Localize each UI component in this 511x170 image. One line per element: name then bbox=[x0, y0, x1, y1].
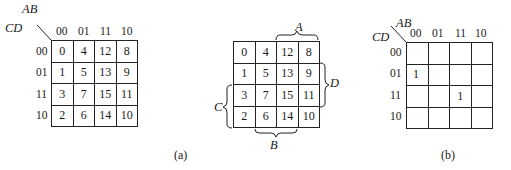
row-label: 10 bbox=[390, 110, 402, 122]
col-label: 10 bbox=[475, 27, 487, 39]
cell bbox=[471, 64, 493, 86]
cell bbox=[471, 107, 493, 129]
cell bbox=[407, 107, 429, 129]
col-label: 11 bbox=[455, 27, 466, 39]
col-label: 01 bbox=[432, 27, 444, 39]
kmap-grid: 1 1 bbox=[406, 42, 493, 129]
cell bbox=[471, 43, 493, 65]
cell bbox=[428, 64, 450, 86]
cell: 1 bbox=[450, 86, 472, 108]
col-label: 00 bbox=[410, 27, 422, 39]
cell bbox=[428, 43, 450, 65]
cell bbox=[407, 86, 429, 108]
row-label: 01 bbox=[390, 67, 402, 79]
cell bbox=[450, 43, 472, 65]
col-var-label: AB bbox=[396, 16, 411, 31]
cell: 1 bbox=[407, 64, 429, 86]
row-label: 00 bbox=[390, 46, 402, 58]
cell bbox=[450, 107, 472, 129]
row-label: 11 bbox=[390, 89, 401, 101]
cell bbox=[450, 64, 472, 86]
cell bbox=[407, 43, 429, 65]
brace-right-icon bbox=[320, 63, 329, 107]
brace-bottom-icon bbox=[255, 129, 297, 137]
cell bbox=[471, 86, 493, 108]
brace-left-icon bbox=[223, 85, 232, 128]
caption-b: (b) bbox=[441, 148, 455, 163]
diagonal-line bbox=[37, 25, 52, 41]
cell bbox=[428, 86, 450, 108]
cell bbox=[428, 107, 450, 129]
brace-top-icon bbox=[276, 31, 318, 40]
row-var-label: CD bbox=[372, 30, 389, 45]
